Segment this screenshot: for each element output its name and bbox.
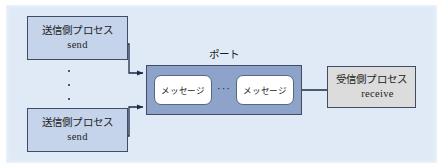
message-box[interactable]: メッセージ (154, 75, 212, 105)
sender-process-box-bottom[interactable]: 送信側プロセス send (27, 108, 128, 152)
port-box[interactable]: メッセージ ··· メッセージ (146, 65, 302, 115)
diagram-root: 送信側プロセス send 送信側プロセス send ポート メッセージ ··· … (0, 0, 443, 168)
message-label: メッセージ (243, 84, 287, 96)
receiver-process-label-receive: receive (349, 87, 393, 101)
sender-process-label-send: send (67, 130, 87, 144)
sender-process-label-jp: 送信側プロセス (42, 24, 113, 38)
port-label: ポート (146, 46, 302, 61)
sender-process-box-top[interactable]: 送信側プロセス send (27, 16, 128, 60)
message-ellipsis-icon: ··· (217, 83, 231, 97)
receiver-process-box[interactable]: 受信側プロセス receive (327, 66, 416, 108)
sender-process-label-send: send (67, 38, 87, 52)
message-box[interactable]: メッセージ (236, 75, 294, 105)
sender-process-label-jp: 送信側プロセス (42, 116, 113, 130)
receiver-process-label-jp: 受信側プロセス (336, 73, 407, 87)
message-label: メッセージ (161, 84, 205, 96)
vertical-ellipsis-icon (62, 70, 76, 100)
